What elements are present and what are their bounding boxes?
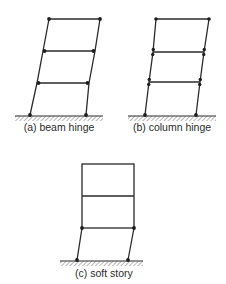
frame (77, 164, 134, 260)
plastic-hinges (143, 17, 211, 117)
panel-label: (c) soft story (75, 267, 134, 279)
panel-soft-story: (c) soft story (60, 164, 143, 279)
frame (30, 19, 100, 115)
structural-collapse-mechanisms-diagram: (a) beam hinge (b) colu (0, 0, 226, 284)
panel-label: (b) column hinge (133, 121, 211, 133)
panel-label: (a) beam hinge (24, 121, 95, 133)
ground-support (60, 261, 143, 266)
panel-column-hinge: (b) column hinge (128, 17, 216, 133)
panel-beam-hinge: (a) beam hinge (15, 17, 103, 133)
plastic-hinges (75, 226, 136, 262)
frame (145, 19, 209, 115)
plastic-hinges (28, 17, 102, 117)
